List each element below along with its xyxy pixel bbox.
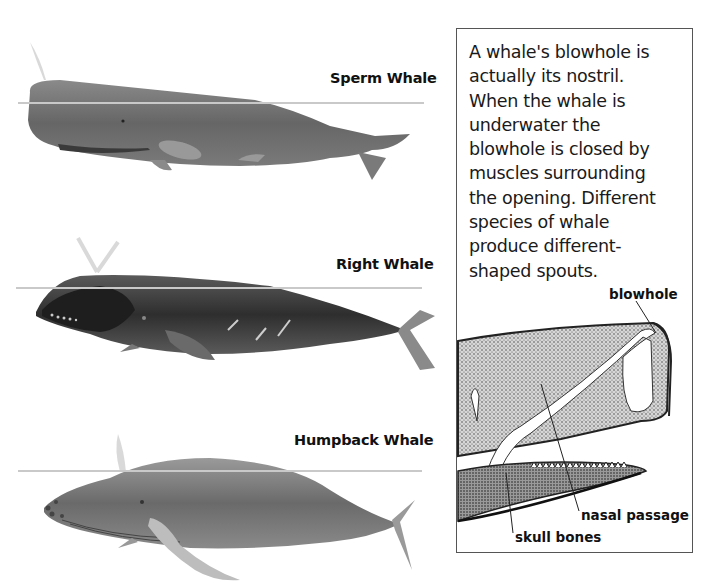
right-whale-waterline bbox=[16, 287, 422, 289]
humpback-whale-waterline bbox=[18, 470, 422, 472]
blowhole-label: blowhole bbox=[609, 286, 678, 302]
sperm-whale-body bbox=[28, 80, 410, 166]
humpback-whale-spout bbox=[116, 434, 126, 472]
skull-bones-label: skull bones bbox=[515, 529, 601, 545]
sperm-whale-spout bbox=[30, 42, 46, 80]
right-whale-spout bbox=[78, 238, 118, 272]
right-whale-illustration bbox=[0, 220, 440, 380]
sperm-whale-illustration bbox=[0, 0, 440, 200]
right-whale-label: Right Whale bbox=[336, 256, 434, 272]
sperm-whale-label: Sperm Whale bbox=[330, 70, 437, 86]
sperm-whale-waterline bbox=[18, 102, 424, 104]
humpback-whale-label: Humpback Whale bbox=[294, 432, 434, 448]
blowhole-info-box: A whale's blowhole is actually its nostr… bbox=[456, 28, 693, 553]
nasal-passage-label: nasal passage bbox=[581, 507, 689, 523]
